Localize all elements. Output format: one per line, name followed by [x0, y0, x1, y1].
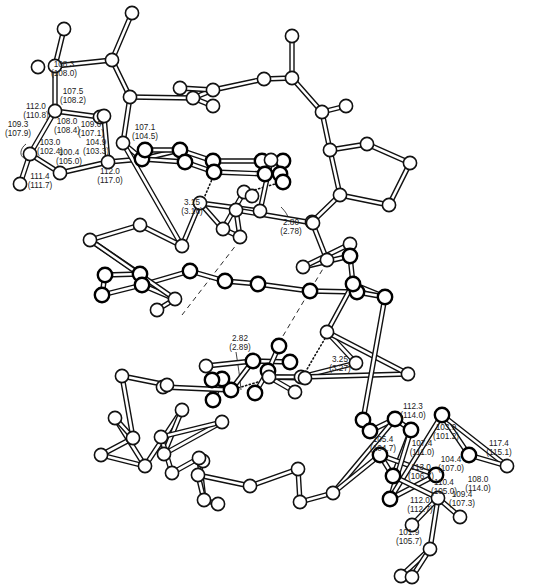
atom [248, 386, 262, 400]
atom [207, 165, 221, 179]
atom [205, 373, 219, 387]
atom [453, 510, 466, 523]
atom [500, 459, 513, 472]
angle-label: 105.4 [373, 435, 394, 444]
angle-label: 109.3 [8, 120, 29, 129]
atom [48, 104, 61, 117]
atom [462, 448, 476, 462]
atom [175, 239, 188, 252]
bond [90, 225, 140, 240]
atom [404, 423, 418, 437]
atom [150, 303, 163, 316]
atom [199, 359, 212, 372]
atom [258, 167, 272, 181]
atom [206, 83, 219, 96]
distance-label: 2.82 [232, 334, 248, 343]
atom [157, 447, 170, 460]
angle-label: (104.7) [370, 444, 396, 453]
angle-label: (107.9) [5, 129, 31, 138]
atom [243, 479, 256, 492]
atom [293, 495, 306, 508]
atom [197, 493, 210, 506]
bond [213, 79, 264, 90]
angle-label: (106.7) [408, 472, 434, 481]
atom [257, 72, 270, 85]
bond [236, 210, 313, 223]
molecular-structure-figure: 108.3(108.0)107.5(108.2)112.0(110.8)108.… [0, 0, 545, 585]
atom [154, 430, 167, 443]
atom [326, 486, 339, 499]
atom [168, 292, 181, 305]
atom [138, 143, 152, 157]
distance-label: 3.15 [184, 198, 200, 207]
atom [175, 403, 188, 416]
angle-label: (104.5) [132, 132, 158, 141]
distance-label: 2.80 [283, 218, 299, 227]
atom [382, 198, 395, 211]
angle-label: (101.2) [433, 432, 459, 441]
angle-label: (107.3) [449, 499, 475, 508]
atom [405, 570, 418, 583]
atom [160, 378, 173, 391]
atom [262, 370, 275, 383]
angle-label: (111.7) [28, 181, 53, 190]
atom [251, 277, 265, 291]
atom [288, 385, 301, 398]
angle-label: 104.4 [441, 455, 462, 464]
atom [272, 339, 286, 353]
angle-label: 111.4 [30, 172, 50, 181]
atom [303, 284, 317, 298]
atom [233, 230, 246, 243]
atom [401, 367, 414, 380]
atom [435, 408, 449, 422]
atom [95, 288, 109, 302]
atom [138, 459, 151, 472]
atom [229, 203, 242, 216]
angle-label: 100.4 [59, 148, 80, 157]
atom [135, 278, 149, 292]
atoms [13, 6, 513, 583]
atom [216, 222, 229, 235]
distance-label: (3.16) [181, 207, 203, 216]
atom [105, 53, 118, 66]
distance-label: (3.27) [329, 364, 351, 373]
atom [386, 469, 400, 483]
atom [125, 6, 138, 19]
angle-label: 109.0 [81, 120, 102, 129]
atom [215, 415, 228, 428]
atom [264, 153, 277, 166]
atom [285, 29, 298, 42]
atom [206, 393, 220, 407]
atom [211, 497, 224, 510]
atom [23, 147, 36, 160]
atom [94, 448, 107, 461]
angle-label: (111.0) [410, 448, 435, 457]
atom [116, 136, 129, 149]
atom [320, 253, 333, 266]
angle-label: (107.0) [438, 464, 464, 473]
atom [186, 91, 199, 104]
angle-label: 103.9 [436, 423, 457, 432]
atom [306, 216, 319, 229]
angle-label: 108.0 [468, 475, 489, 484]
atom [206, 99, 219, 112]
distance-label: (2.78) [280, 227, 302, 236]
atom [349, 356, 362, 369]
angle-label: (107.1) [78, 129, 104, 138]
bond [130, 97, 193, 98]
bond [112, 13, 132, 60]
angle-label: 103.0 [40, 138, 61, 147]
atom [360, 137, 373, 150]
atom [296, 260, 309, 273]
angle-label: (105.0) [56, 157, 82, 166]
atom [339, 99, 352, 112]
atom [191, 468, 204, 481]
atom [108, 411, 121, 424]
angle-label: (110.8) [23, 111, 49, 120]
angle-label: (103.3) [83, 147, 109, 156]
angle-label: (112.7) [407, 505, 433, 514]
angle-label: 112.3 [403, 402, 423, 411]
angle-label: (105.7) [396, 537, 422, 546]
atom [126, 431, 139, 444]
angle-label: 112.0 [26, 102, 46, 111]
